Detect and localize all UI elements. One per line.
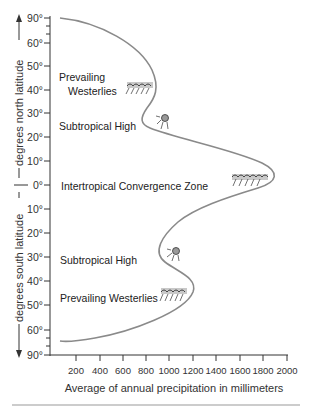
x-tick-label: 800: [138, 365, 154, 376]
annotation-prevailing-westerlies-north: Prevailing Westerlies: [59, 71, 153, 97]
x-axis-title: Average of annual precipitation in milli…: [65, 382, 284, 394]
y-tick-label: 20°: [27, 131, 43, 143]
y-tick-label: 60°: [27, 37, 43, 49]
precipitation-chart: 90° 60° 50° 40° 30° 20° 10° 0° 10° 20° 3…: [0, 0, 310, 409]
x-tick-label: 2000: [276, 365, 297, 376]
y-axis-title-north: degrees north latitude: [12, 14, 26, 178]
annotation-prevailing-westerlies-south: Prevailing Westerlies: [60, 288, 187, 304]
svg-text:Subtropical High: Subtropical High: [60, 254, 137, 266]
rain-cloud-icon: [232, 174, 268, 186]
y-tick-label: 50°: [27, 299, 43, 311]
y-tick-label: 0°: [33, 179, 43, 191]
x-tick-label: 1800: [252, 365, 273, 376]
x-tick-label: 1600: [229, 365, 250, 376]
svg-text:Intertropical Convergence Zone: Intertropical Convergence Zone: [61, 180, 208, 192]
x-tick-label: 400: [92, 365, 108, 376]
y-tick-label: 90°: [27, 12, 43, 24]
arrow-down-icon: [16, 350, 22, 358]
svg-text:Prevailing Westerlies: Prevailing Westerlies: [60, 292, 158, 304]
y-tick-label: 10°: [27, 203, 43, 215]
x-tick-label: 1000: [158, 365, 179, 376]
y-tick-label: 40°: [27, 84, 43, 96]
svg-text:Westerlies: Westerlies: [68, 85, 117, 97]
x-tick-label: 200: [68, 365, 84, 376]
svg-text:degrees north latitude: degrees north latitude: [13, 60, 25, 166]
y-tick-label: 10°: [27, 155, 43, 167]
x-tick-label: 1200: [182, 365, 203, 376]
x-tick-label: 600: [115, 365, 131, 376]
y-tick-label: 40°: [27, 275, 43, 287]
y-tick-label: 50°: [27, 60, 43, 72]
y-tick-label: 60°: [27, 324, 43, 336]
annotation-itcz: Intertropical Convergence Zone: [61, 174, 268, 192]
arrow-up-icon: [16, 14, 22, 22]
x-axis: 200 400 600 800 1000 1200 1400 1600 1800…: [50, 355, 298, 394]
y-tick-label: 30°: [27, 107, 43, 119]
rain-cloud-icon: [160, 288, 187, 301]
sun-icon: [156, 115, 169, 130]
y-tick-label: 20°: [27, 227, 43, 239]
y-axis-title-south: degrees south latitude: [12, 192, 26, 358]
svg-text:Subtropical High: Subtropical High: [59, 120, 136, 132]
sun-icon: [167, 248, 180, 262]
svg-text:Prevailing: Prevailing: [59, 71, 105, 83]
svg-text:degrees south latitude: degrees south latitude: [13, 214, 25, 322]
x-tick-label: 1400: [205, 365, 226, 376]
y-tick-label: 30°: [27, 251, 43, 263]
rain-cloud-icon: [126, 82, 153, 94]
annotation-subtropical-high-south: Subtropical High: [60, 248, 180, 267]
y-tick-label: 90°: [27, 349, 43, 361]
